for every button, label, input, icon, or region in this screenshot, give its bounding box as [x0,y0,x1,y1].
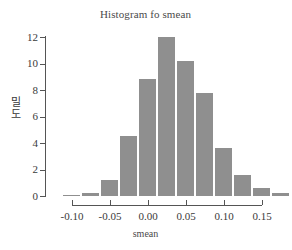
y-axis-tick [40,64,45,65]
x-axis-line [72,205,262,206]
histogram-bar [63,195,81,196]
y-axis-tick-label: 12 [16,32,38,43]
y-axis-tick-label: 6 [16,111,38,122]
y-axis-tick-label: 10 [16,58,38,69]
x-axis-tick [262,200,263,205]
y-axis-tick [40,37,45,38]
histogram-bar [177,61,195,196]
y-axis-tick [40,90,45,91]
histogram-bar [158,37,176,196]
histogram-bar [234,175,252,196]
histogram-figure: Histogram fo smean 밀 도 024681012 -0.10-0… [0,0,291,250]
x-axis-label: smean [0,228,291,239]
x-axis-tick-label: 0.10 [204,210,244,222]
x-axis-tick [72,200,73,205]
x-axis-tick-label: 0.15 [242,210,282,222]
x-axis-tick-label: 0.00 [128,210,168,222]
histogram-bar [120,136,138,196]
y-axis-tick-label: 8 [16,85,38,96]
y-axis-tick-label: 4 [16,138,38,149]
x-axis-tick [186,200,187,205]
y-axis-tick [40,170,45,171]
x-axis-tick [148,200,149,205]
histogram-bar [101,180,119,196]
x-axis-tick-label: -0.10 [52,210,92,222]
x-axis-tick [110,200,111,205]
histogram-bar [196,93,214,196]
y-axis-tick-label: 0 [16,191,38,202]
histogram-bar [253,188,271,196]
y-axis-tick-label: 2 [16,164,38,175]
x-axis-tick [224,200,225,205]
x-axis-tick-label: -0.05 [90,210,130,222]
histogram-bar [215,148,233,196]
plot-area [46,30,286,196]
x-axis-tick-label: 0.05 [166,210,206,222]
y-axis-label-char-1: 밀 [8,96,24,108]
y-axis-tick [40,196,45,197]
y-axis-tick [40,143,45,144]
chart-title: Histogram fo smean [0,8,291,20]
histogram-bar [82,193,100,196]
histogram-bar [139,79,157,196]
histogram-bar [291,195,292,196]
histogram-bar [272,193,290,196]
y-axis-tick [40,117,45,118]
bars-group [46,30,286,196]
